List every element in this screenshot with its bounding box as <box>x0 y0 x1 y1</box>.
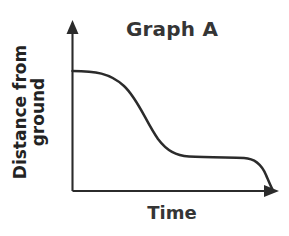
chart-title: Graph A <box>96 17 248 41</box>
distance-from-ground-curve <box>73 71 274 191</box>
y-axis-arrow-icon <box>67 20 79 34</box>
graph-figure: Graph A Time Distance from ground <box>0 0 289 236</box>
x-axis-label: Time <box>112 202 232 223</box>
y-axis-label-line-2: ground <box>30 78 48 147</box>
y-axis-label: Distance from ground <box>4 34 56 190</box>
